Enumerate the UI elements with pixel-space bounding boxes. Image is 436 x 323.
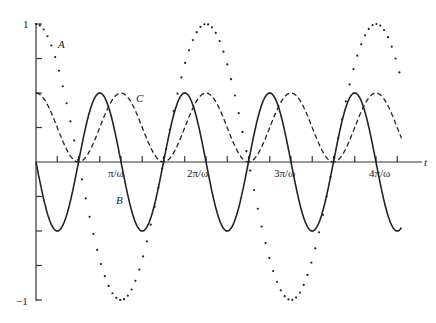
series-a-point [352, 68, 354, 70]
series-a-point [184, 62, 186, 64]
series-a-point [226, 63, 228, 65]
series-a-point [383, 29, 385, 31]
series-a-point [306, 274, 308, 276]
series-a-point [207, 23, 209, 25]
series-a-point [230, 78, 232, 80]
series-a-point [138, 269, 140, 271]
series-a-point [375, 23, 377, 25]
series-a-point [253, 189, 255, 191]
series-a-point [88, 216, 90, 218]
series-a-point [295, 296, 297, 298]
series-a-point [284, 295, 286, 297]
series-a-point [241, 131, 243, 133]
x-axis-label: t [424, 156, 428, 168]
series-a-point [104, 275, 106, 277]
x-tick-label-4: 4π/ω [369, 167, 390, 179]
series-a-point [345, 100, 347, 102]
series-a-point [62, 85, 64, 87]
series-a-point [131, 288, 133, 290]
series-a-point [398, 71, 400, 73]
series-c-label: C [136, 92, 144, 104]
y-top-label: 1 [23, 18, 29, 30]
series-a-point [150, 224, 152, 226]
x-tick-label-1: π/ω [108, 167, 124, 179]
series-a-point [92, 233, 94, 235]
series-a-point [188, 49, 190, 51]
series-a-point [119, 299, 121, 301]
series-a-point [100, 263, 102, 265]
series-a-point [318, 231, 320, 233]
series-a-point [238, 112, 240, 114]
series-a-point [199, 26, 201, 28]
series-a-point [85, 197, 87, 199]
series-a-point [261, 225, 263, 227]
series-a-point [314, 247, 316, 249]
series-a-point [299, 291, 301, 293]
series-a-point [360, 43, 362, 45]
series-a-point [219, 40, 221, 42]
series-a-point [303, 284, 305, 286]
series-a-point [35, 23, 37, 25]
series-a-label: A [57, 38, 65, 50]
series-a-point [46, 35, 48, 37]
series-a-point [127, 295, 129, 297]
series-a-point [356, 55, 358, 57]
series-a-point [257, 208, 259, 210]
series-a-point [249, 170, 251, 172]
series-a-point [264, 242, 266, 244]
series-a-point [108, 285, 110, 287]
series-a-point [372, 24, 374, 26]
series-a-point [192, 39, 194, 41]
y-bottom-label: −1 [16, 295, 28, 307]
series-a-point [73, 139, 75, 141]
series-a-point [272, 270, 274, 272]
series-a-point [115, 297, 117, 299]
series-a-point [222, 51, 224, 53]
series-a-point [134, 280, 136, 282]
series-a-point [58, 70, 60, 72]
axes [36, 23, 422, 301]
series-a-point [391, 46, 393, 48]
series-a-point [394, 57, 396, 59]
series-a-point [211, 26, 213, 28]
series-a-point [96, 249, 98, 251]
x-tick-label-2: 2π/ω [187, 167, 208, 179]
series-a-point [387, 36, 389, 38]
series-a-point [142, 255, 144, 257]
series-a-point [66, 102, 68, 104]
series-a-point [368, 28, 370, 30]
series-a-point [287, 298, 289, 300]
series-a-point [234, 94, 236, 96]
series-a-point [215, 32, 217, 34]
series-a-point [146, 240, 148, 242]
x-tick-label-3: 3π/ω [274, 167, 295, 179]
series-a-point [276, 281, 278, 283]
series-a-point [54, 56, 56, 58]
series-a-point [43, 28, 45, 30]
series-a-point [349, 83, 351, 85]
series-a-point [310, 261, 312, 263]
series-b-label: B [116, 194, 123, 206]
series-a-point [203, 23, 205, 25]
x-ticks [57, 156, 397, 162]
series-a-point [180, 76, 182, 78]
series-a-point [50, 44, 52, 46]
series-a-point [245, 150, 247, 152]
series-a-point [268, 257, 270, 259]
series-a-point [379, 25, 381, 27]
series-a-point [291, 299, 293, 301]
series-a-point [196, 31, 198, 33]
series-a-point [111, 292, 113, 294]
series-a-point [81, 178, 83, 180]
series-a-point [364, 34, 366, 36]
series-a-point [69, 120, 71, 122]
series-a-point [176, 93, 178, 95]
series-a-point [39, 24, 41, 26]
series-a-point [280, 289, 282, 291]
series-a-point [123, 298, 125, 300]
chart: 1 −1 t π/ω 2π/ω 3π/ω 4π/ω A B C [0, 0, 436, 323]
